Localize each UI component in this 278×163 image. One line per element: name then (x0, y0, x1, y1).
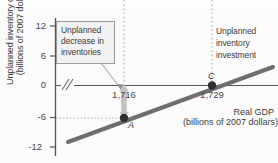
x-axis-title-line1: Real GDP (178, 107, 278, 117)
y-axis-title: Unplanned inventory change (billions of … (5, 0, 25, 88)
axis-break-icon (61, 79, 74, 91)
ytick-label-minus12: -12 (20, 141, 42, 152)
right-note-line1: Unplanned (216, 25, 278, 37)
y-axis-title-line2: (billions of 2007 dollars) (15, 0, 25, 88)
x-axis-title-line2: (billions of 2007 dollars) (178, 117, 278, 127)
unplanned-inventory-investment-label: Unplanned inventory investment (216, 25, 278, 61)
point-label-a: A (128, 120, 134, 130)
unplanned-decrease-callout: Unplanned decrease in inventories (56, 21, 115, 64)
x-value-label-1729: 1,729 (192, 89, 232, 100)
callout-line2: decrease in (61, 36, 111, 47)
inventory-investment-line (68, 67, 273, 142)
x-axis-title: Real GDP (billions of 2007 dollars) (178, 107, 278, 127)
ytick-label-12: 12 (24, 20, 46, 31)
ytick-label-0: 0 (24, 79, 46, 90)
ytick-label-6: 6 (24, 50, 46, 61)
y-axis-title-line1: Unplanned inventory change (5, 0, 15, 88)
right-note-line3: investment (216, 49, 278, 61)
callout-line3: inventories (61, 47, 111, 58)
data-point-a (120, 114, 128, 122)
point-label-c: C (208, 71, 215, 81)
callout-line1: Unplanned (61, 25, 111, 36)
x-value-label-1716: 1,716 (104, 89, 144, 100)
right-note-line2: inventory (216, 37, 278, 49)
ytick-label-minus6: -6 (24, 111, 46, 122)
inventory-investment-chart: Unplanned inventory change (billions of … (0, 0, 278, 163)
